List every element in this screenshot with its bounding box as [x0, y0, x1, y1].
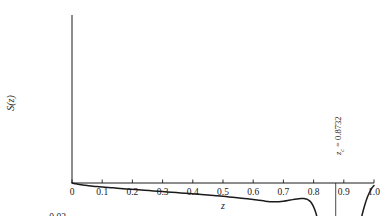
x-axis-title: z: [220, 200, 225, 211]
critical-point-label-text: zc = 0.8732: [333, 117, 345, 156]
x-tick-label: 0.7: [277, 187, 289, 197]
x-tick-label: 0.6: [247, 187, 259, 197]
x-tick-label: 0: [70, 187, 75, 197]
line-chart: -0.02-0.04-0.06-0.08-0.10 00.10.20.30.40…: [0, 0, 384, 216]
svg-text:S(z): S(z): [5, 95, 17, 111]
chart-container: -0.02-0.04-0.06-0.08-0.10 00.10.20.30.40…: [0, 0, 384, 216]
x-tick-label: 0.1: [96, 187, 108, 197]
x-axis-ticks: [72, 180, 374, 184]
x-tick-label: 0.9: [338, 187, 350, 197]
x-tick-label: 0.4: [187, 187, 199, 197]
y-axis-tick-labels: -0.02-0.04-0.06-0.08-0.10: [46, 212, 66, 216]
y-axis-title: S(z): [5, 95, 17, 111]
critical-point-label: zc = 0.8732: [333, 117, 345, 156]
x-tick-label: 0.8: [308, 187, 320, 197]
y-tick-label: -0.02: [46, 212, 66, 216]
